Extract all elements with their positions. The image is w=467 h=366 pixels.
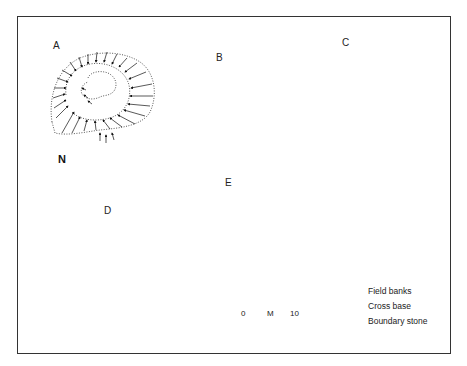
scale-unit-label: M <box>267 309 274 318</box>
legend-label-boundary-stone: Boundary stone <box>368 316 428 326</box>
site-label-e: E <box>225 177 232 188</box>
site-label-b: B <box>216 52 223 63</box>
site-a-plan <box>51 52 154 143</box>
legend-label-cross-base: Cross base <box>368 301 411 311</box>
earthwork-plans <box>0 0 467 366</box>
north-label: N <box>58 153 66 165</box>
scale-end-label: 10 <box>290 309 299 318</box>
scale-start-label: 0 <box>241 309 245 318</box>
site-label-d: D <box>104 205 111 216</box>
site-label-a: A <box>53 40 60 51</box>
site-label-c: C <box>342 37 349 48</box>
legend-label-field-banks: Field banks <box>368 286 411 296</box>
